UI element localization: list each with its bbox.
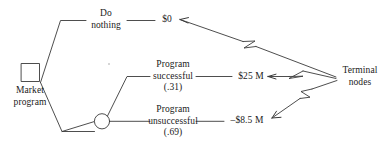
decision-square-node — [22, 64, 40, 82]
terminal-arrow-line-zero — [256, 47, 336, 78]
branch-label-program-unsuccessful-line2: unsuccessful — [148, 116, 198, 128]
branch-label-do-nothing-line2: nothing — [91, 20, 121, 32]
lightning-break-icon-neg85m — [300, 89, 312, 99]
terminal-arrow-line-neg85m — [312, 81, 337, 90]
decision-node-label: Market program — [14, 85, 47, 108]
scan-speck — [108, 63, 110, 65]
payoff-label-program-successful: $25 M — [238, 71, 264, 82]
branch-label-program-unsuccessful: Program unsuccessful (.69) — [148, 104, 198, 139]
branch-label-do-nothing-line1: Do — [91, 8, 121, 20]
branch-label-program-successful-line1: Program — [153, 59, 193, 71]
lightning-break-icon-zero — [243, 41, 256, 48]
branch-line-market-program-to-circle — [62, 122, 95, 132]
terminal-nodes-annotation-line1: Terminal — [343, 65, 378, 77]
terminal-nodes-annotation-line2: nodes — [343, 77, 378, 89]
branch-probability-program-successful: (.31) — [153, 82, 193, 94]
payoff-label-program-unsuccessful: –$8.5 M — [231, 115, 264, 126]
branch-probability-program-unsuccessful: (.69) — [148, 127, 198, 139]
arrowhead-zero — [180, 18, 189, 23]
terminal-arrow-line-zero-2 — [180, 20, 243, 42]
decision-node-label-line2: program — [14, 97, 47, 109]
payoff-label-do-nothing: $0 — [162, 14, 172, 25]
branch-label-do-nothing: Do nothing — [91, 8, 121, 31]
branch-label-program-successful: Program successful (.31) — [153, 59, 193, 94]
decision-tree-diagram: Do nothing $0 Market program Program suc… — [0, 0, 386, 154]
branch-line-program-successful — [108, 77, 151, 117]
lightning-break-icon-25m — [289, 71, 303, 79]
decision-node-label-line1: Market — [14, 85, 47, 97]
branch-label-program-unsuccessful-line1: Program — [148, 104, 198, 116]
terminal-arrow-line-neg85m-2 — [272, 99, 300, 119]
branch-line-do-nothing — [41, 21, 87, 83]
branch-label-program-successful-line2: successful — [153, 71, 193, 83]
terminal-nodes-annotation: Terminal nodes — [343, 65, 378, 88]
